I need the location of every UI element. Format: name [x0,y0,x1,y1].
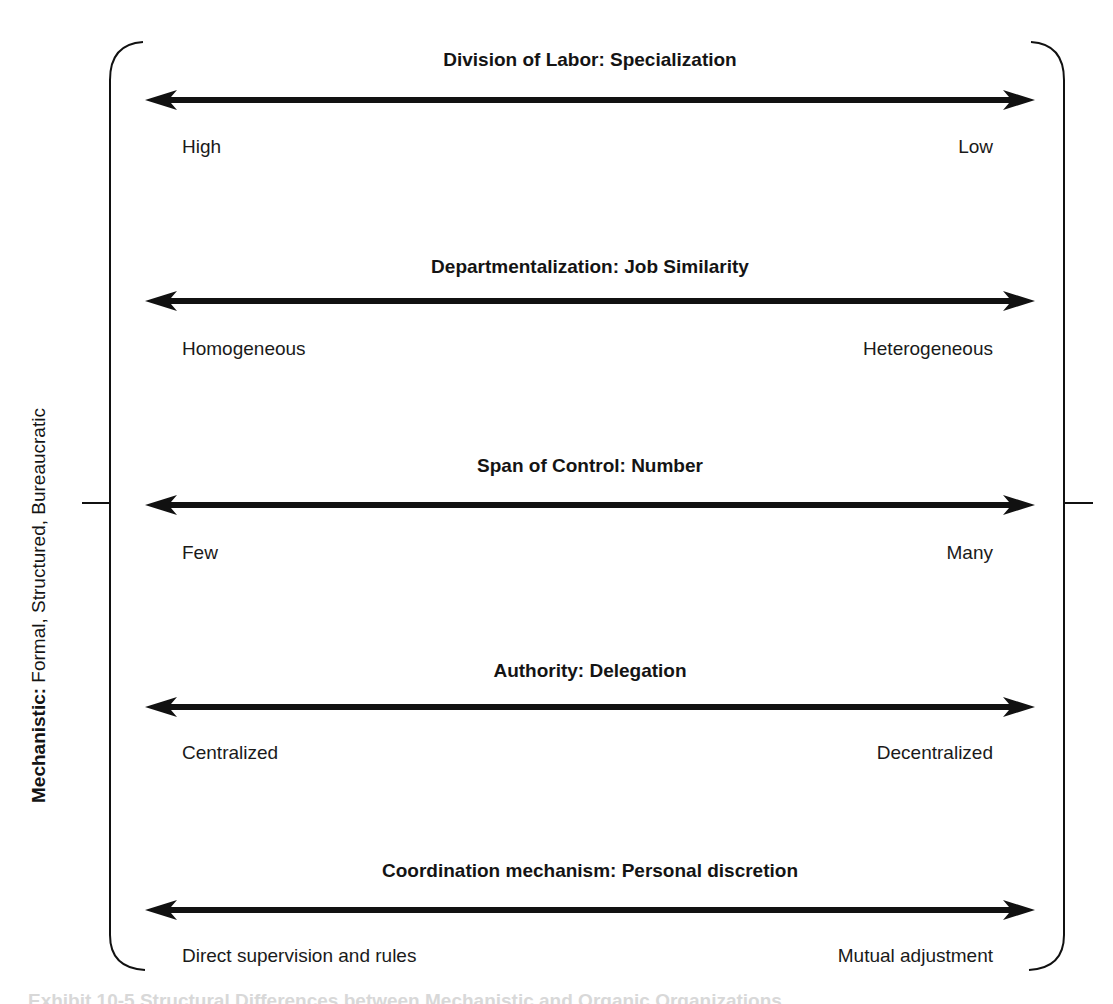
left-pole-label: Homogeneous [182,338,306,360]
right-pole-label: Decentralized [877,742,993,764]
organization-type: Mechanistic: [28,688,49,803]
double-headed-arrow [145,697,1035,717]
right-pole-label: Heterogeneous [863,338,993,360]
double-headed-arrow [145,495,1035,515]
left-pole-label: High [182,136,221,158]
dimension-title: Departmentalization: Job Similarity [145,256,1035,278]
right-pole-label: Many [947,542,993,564]
continuum-diagram [0,0,1113,1004]
organization-type-label: Mechanistic: Formal, Structured, Bureauc… [28,203,54,803]
double-headed-arrow [145,900,1035,920]
organization-descriptors: Formal, Structured, Bureaucratic [28,408,49,688]
dimension-title: Authority: Delegation [145,660,1035,682]
left-bracket [110,42,145,970]
right-pole-label: Low [958,136,993,158]
dimension-title: Coordination mechanism: Personal discret… [145,860,1035,882]
right-bracket [1029,42,1064,970]
double-headed-arrow [145,291,1035,311]
figure-caption: Exhibit 10-5 Structural Differences betw… [28,990,782,1004]
left-pole-label: Centralized [182,742,278,764]
dimension-title: Span of Control: Number [145,455,1035,477]
left-pole-label: Few [182,542,218,564]
right-pole-label: Mutual adjustment [838,945,993,967]
left-pole-label: Direct supervision and rules [182,945,416,967]
double-headed-arrow [145,90,1035,110]
dimension-title: Division of Labor: Specialization [145,49,1035,71]
